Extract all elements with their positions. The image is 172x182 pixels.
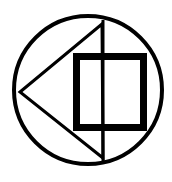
geometric-symbol bbox=[0, 0, 172, 182]
